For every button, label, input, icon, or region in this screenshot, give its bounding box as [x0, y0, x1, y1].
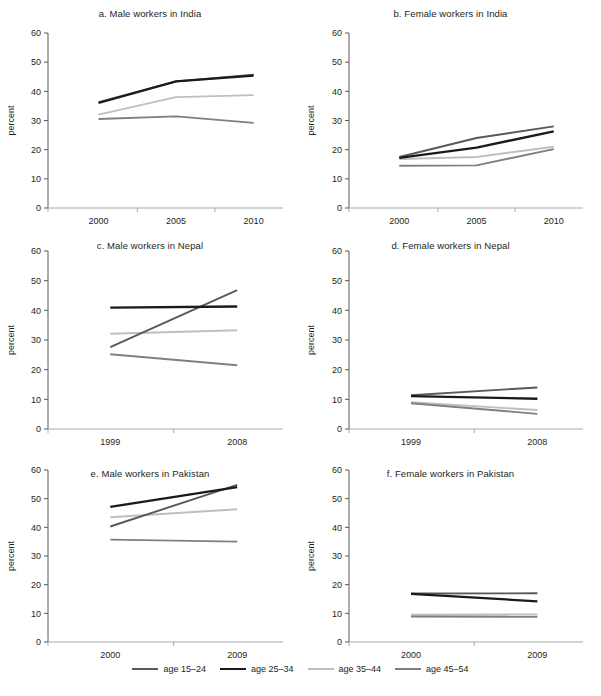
y-tick-label: 10	[31, 395, 41, 405]
y-tick-label: 40	[31, 87, 41, 97]
legend-item-age-25-34: age 25–34	[220, 664, 294, 674]
series-line-age-15-24	[110, 290, 237, 347]
y-tick-label: 0	[337, 203, 342, 213]
x-tick-label: 2009	[527, 650, 547, 660]
panel-a-plot: 0102030405060percent200020052010	[0, 0, 300, 232]
panel-f-title: f. Female workers in Pakistan	[300, 468, 601, 479]
legend-label-age-25-34: age 25–34	[251, 664, 294, 674]
y-tick-label: 30	[31, 551, 41, 561]
x-tick-label: 2009	[227, 650, 247, 660]
panel-e: 0102030405060percent20002009 e. Male wor…	[0, 460, 300, 660]
legend-label-age-45-54: age 45–54	[426, 664, 469, 674]
series-line-age-35-44	[110, 330, 237, 334]
panel-f-plot: 0102030405060percent20002009	[300, 460, 601, 660]
legend-swatch-icon-age-45-54	[395, 668, 421, 670]
x-tick-label: 2008	[227, 437, 247, 447]
series-line-age-45-54	[110, 540, 237, 542]
y-tick-label: 40	[332, 306, 342, 316]
legend-item-age-35-44: age 35–44	[308, 664, 382, 674]
y-tick-label: 10	[332, 395, 342, 405]
panel-b-title: b. Female workers in India	[300, 8, 601, 19]
y-tick-label: 0	[36, 637, 41, 647]
panel-d-title: d. Female workers in Nepal	[300, 240, 601, 251]
y-tick-label: 10	[332, 609, 342, 619]
y-tick-label: 10	[31, 609, 41, 619]
panel-d-plot: 0102030405060percent19992008	[300, 232, 601, 460]
y-axis-label: percent	[306, 105, 316, 136]
series-line-age-25-34	[110, 306, 237, 307]
y-tick-label: 0	[36, 424, 41, 434]
figure-multi-panel-line-charts: 0102030405060percent200020052010 a. Male…	[0, 0, 601, 696]
legend-item-age-15-24: age 15–24	[132, 664, 206, 674]
x-tick-label: 2010	[244, 216, 264, 226]
y-tick-label: 40	[332, 523, 342, 533]
panel-b-plot: 0102030405060percent200020052010	[300, 0, 601, 232]
legend-swatch-icon-age-15-24	[132, 668, 158, 670]
y-axis-label: percent	[306, 324, 316, 355]
y-tick-label: 30	[332, 335, 342, 345]
y-tick-label: 30	[332, 116, 342, 126]
panel-f: 0102030405060percent20002009 f. Female w…	[300, 460, 601, 660]
y-tick-label: 60	[332, 28, 342, 38]
x-tick-label: 2010	[544, 216, 564, 226]
series-line-age-25-34	[411, 396, 537, 399]
y-axis-label: percent	[6, 540, 16, 571]
x-tick-label: 2000	[89, 216, 109, 226]
series-line-age-15-24	[399, 126, 553, 157]
y-tick-label: 50	[332, 276, 342, 286]
y-tick-label: 40	[31, 523, 41, 533]
y-tick-label: 50	[332, 57, 342, 67]
series-line-age-35-44	[99, 95, 254, 115]
series-line-age-25-34	[110, 487, 237, 507]
y-tick-label: 20	[31, 145, 41, 155]
y-tick-label: 20	[332, 145, 342, 155]
y-tick-label: 40	[31, 306, 41, 316]
panel-c: 0102030405060percent19992008 c. Male wor…	[0, 232, 300, 460]
series-line-age-25-34	[411, 594, 537, 601]
panel-a-title: a. Male workers in India	[0, 8, 300, 19]
x-tick-label: 2008	[527, 437, 547, 447]
y-tick-label: 30	[31, 116, 41, 126]
x-tick-label: 2005	[166, 216, 186, 226]
y-tick-label: 50	[332, 494, 342, 504]
y-tick-label: 60	[31, 28, 41, 38]
panel-b: 0102030405060percent200020052010 b. Fema…	[300, 0, 601, 232]
series-line-age-25-34	[99, 76, 254, 103]
panel-grid: 0102030405060percent200020052010 a. Male…	[0, 0, 601, 660]
y-tick-label: 10	[31, 174, 41, 184]
y-tick-label: 50	[31, 276, 41, 286]
series-line-age-45-54	[99, 116, 254, 122]
legend-label-age-15-24: age 15–24	[163, 664, 206, 674]
panel-e-title: e. Male workers in Pakistan	[0, 468, 300, 479]
panel-c-plot: 0102030405060percent19992008	[0, 232, 300, 460]
panel-c-title: c. Male workers in Nepal	[0, 240, 300, 251]
x-tick-label: 1999	[100, 437, 120, 447]
legend-label-age-35-44: age 35–44	[339, 664, 382, 674]
y-tick-label: 0	[36, 203, 41, 213]
y-tick-label: 50	[31, 494, 41, 504]
legend-swatch-icon-age-25-34	[220, 668, 246, 670]
y-tick-label: 20	[31, 365, 41, 375]
x-tick-label: 2005	[467, 216, 487, 226]
panel-e-plot: 0102030405060percent20002009	[0, 460, 300, 660]
y-tick-label: 0	[337, 637, 342, 647]
y-tick-label: 20	[332, 365, 342, 375]
panel-d: 0102030405060percent19992008 d. Female w…	[300, 232, 601, 460]
y-axis-label: percent	[306, 540, 316, 571]
y-tick-label: 20	[31, 580, 41, 590]
y-axis-label: percent	[6, 105, 16, 136]
panel-a: 0102030405060percent200020052010 a. Male…	[0, 0, 300, 232]
y-tick-label: 50	[31, 57, 41, 67]
x-tick-label: 2000	[401, 650, 421, 660]
series-line-age-35-44	[110, 509, 237, 517]
series-line-age-45-54	[110, 354, 237, 365]
x-tick-label: 2000	[100, 650, 120, 660]
x-tick-label: 1999	[401, 437, 421, 447]
y-tick-label: 20	[332, 580, 342, 590]
x-tick-label: 2000	[389, 216, 409, 226]
y-tick-label: 30	[332, 551, 342, 561]
y-axis-label: percent	[6, 324, 16, 355]
legend: age 15–24 age 25–34 age 35–44 age 45–54	[0, 664, 601, 674]
y-tick-label: 30	[31, 335, 41, 345]
legend-swatch-icon-age-35-44	[308, 668, 334, 670]
